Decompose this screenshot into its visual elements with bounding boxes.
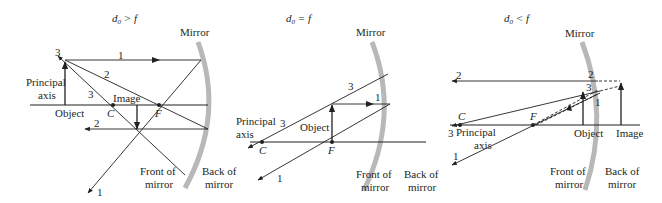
mirror-label: Mirror — [356, 26, 386, 38]
back-label-line1: Back of — [605, 165, 640, 177]
image-label: Image — [616, 127, 644, 139]
axis-label-line2: axis — [474, 139, 492, 151]
axis-label-line1: Principal — [456, 126, 496, 138]
object-label: Object — [300, 121, 329, 133]
ray-label: 1 — [595, 96, 601, 108]
front-label-line1: Front of — [140, 165, 176, 177]
F-label: F — [327, 144, 335, 156]
front-label-line1: Front of — [356, 168, 392, 180]
back-label-line2: mirror — [205, 178, 233, 190]
C-label: C — [259, 144, 267, 156]
ray-label: 1 — [118, 49, 124, 61]
axis-label-line2: axis — [236, 128, 254, 140]
panel-title: d0 < f — [504, 12, 531, 26]
ray-label: 1 — [277, 172, 283, 184]
ray-label: 3 — [55, 46, 61, 58]
front-label-line2: mirror — [555, 178, 583, 190]
back-label-line2: mirror — [608, 178, 636, 190]
ray-label: 3 — [586, 81, 592, 93]
ray-label: 3 — [348, 80, 354, 92]
ray-label: 2 — [588, 68, 594, 80]
back-label-line1: Back of — [404, 168, 439, 180]
ray-3 — [248, 74, 388, 148]
mirror-label: Mirror — [565, 27, 595, 39]
panel-do-greater-than-f: d0 > f Mirror Principal axis Object Imag… — [26, 12, 237, 198]
object-label: Object — [55, 107, 84, 119]
ray-label: 1 — [375, 91, 381, 103]
panel-do-less-than-f: d0 < f Mirror Principal axis 3 Object Im… — [448, 12, 644, 190]
axis-label-line2: axis — [38, 89, 56, 101]
image-label: Image — [113, 92, 141, 104]
object-label: Object — [574, 127, 603, 139]
ray-label: 2 — [104, 68, 110, 80]
ray-label: 2 — [456, 69, 462, 81]
mirror-label: Mirror — [180, 26, 210, 38]
ray-3-virtual-extension — [600, 86, 620, 91]
ray-label: 1 — [453, 150, 459, 162]
concave-mirror-ray-diagrams: d0 > f Mirror Principal axis Object Imag… — [0, 0, 662, 203]
ray-label: 1 — [97, 186, 103, 198]
back-label-line1: Back of — [202, 165, 237, 177]
F-label: F — [154, 107, 162, 119]
axis-label-line1: Principal — [26, 76, 66, 88]
front-label-line1: Front of — [550, 165, 586, 177]
axis-label-line1: Principal — [236, 115, 276, 127]
C-label: C — [458, 110, 466, 122]
F-label: F — [529, 110, 537, 122]
ray-3-reflected — [452, 91, 600, 126]
panel-title: d0 = f — [286, 12, 313, 26]
panel-title: d0 > f — [112, 12, 139, 26]
ray-label: 3 — [280, 117, 286, 129]
front-label-line2: mirror — [145, 178, 173, 190]
ray-label: 2 — [94, 117, 100, 129]
panel-do-equals-f: d0 = f Mirror Principal axis Object C F … — [236, 12, 439, 193]
back-label-line2: mirror — [408, 181, 436, 193]
front-label-line2: mirror — [361, 181, 389, 193]
ray-label: 3 — [88, 88, 94, 100]
ray-focal-dashed — [533, 90, 598, 125]
ray-label: 3 — [448, 127, 454, 139]
